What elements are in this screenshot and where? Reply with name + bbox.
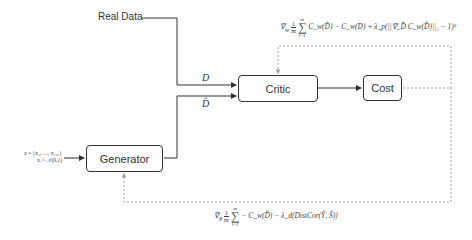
fake-edge-label: D̂	[202, 98, 209, 109]
generator-update-edge	[124, 88, 451, 202]
critic-loss-formula: ∇w 1m m∑i=1 C_w(D̂) − C_w(D) + λ_p(||∇_D…	[280, 17, 456, 38]
noise-input-label: z = {x₁, …, x₁₀₀} xᵢ ~ 𝒩(0,1)	[14, 150, 62, 164]
generator-node: Generator	[86, 145, 163, 172]
noise-input-line1: z = {x₁, …, x₁₀₀}	[14, 150, 62, 157]
critic-node: Critic	[238, 75, 318, 102]
sum-symbol: m∑i=1	[298, 17, 307, 38]
fraction: 1m	[224, 210, 229, 223]
noise-input-line2: xᵢ ~ 𝒩(0,1)	[14, 157, 62, 164]
generator-loss-formula: ∇θ 1m m∑i=1 − C_w(D̂) − λ_d(DistCor(Ŷ, Ŝ…	[214, 206, 338, 227]
cost-node: Cost	[363, 75, 402, 101]
real-edge-label: D	[202, 72, 209, 83]
fraction: 1m	[291, 21, 296, 34]
real-data-edge	[142, 18, 236, 85]
real-data-label: Real Data	[98, 11, 142, 22]
generated-data-edge	[164, 96, 236, 158]
sum-symbol: m∑i=1	[231, 206, 240, 227]
